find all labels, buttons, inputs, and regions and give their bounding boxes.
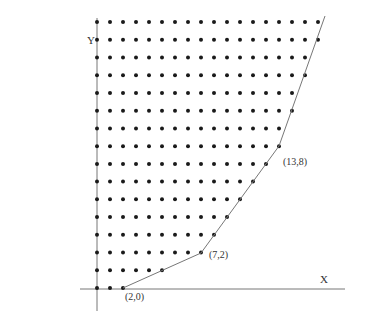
- lattice-point: [212, 162, 216, 166]
- lattice-point: [186, 20, 190, 24]
- lattice-point: [277, 38, 281, 42]
- lattice-point: [134, 56, 138, 60]
- lattice-point: [212, 38, 216, 42]
- vertex-labels: (2,0) (7,2) (13,8): [125, 156, 307, 303]
- lattice-point: [238, 126, 242, 130]
- lattice-point: [95, 91, 99, 95]
- lattice-point: [121, 251, 125, 255]
- boundary-polyline: [123, 16, 325, 288]
- lattice-point: [238, 109, 242, 113]
- lattice-point: [264, 56, 268, 60]
- lattice-point: [121, 73, 125, 77]
- lattice-point: [160, 73, 164, 77]
- lattice-point: [160, 233, 164, 237]
- lattice-point: [121, 144, 125, 148]
- lattice-point: [173, 20, 177, 24]
- lattice-point: [225, 91, 229, 95]
- lattice-point: [264, 20, 268, 24]
- lattice-point: [225, 56, 229, 60]
- lattice-point: [147, 197, 151, 201]
- lattice-point: [95, 109, 99, 113]
- lattice-point: [108, 20, 112, 24]
- lattice-point: [121, 38, 125, 42]
- lattice-point: [173, 180, 177, 184]
- lattice-point: [173, 251, 177, 255]
- lattice-point: [186, 144, 190, 148]
- lattice-point: [225, 109, 229, 113]
- lattice-point: [147, 73, 151, 77]
- lattice-point: [238, 91, 242, 95]
- lattice-point: [121, 233, 125, 237]
- lattice-point: [186, 91, 190, 95]
- lattice-point: [225, 126, 229, 130]
- lattice-point: [95, 73, 99, 77]
- lattice-point: [95, 144, 99, 148]
- lattice-point: [199, 91, 203, 95]
- lattice-point: [238, 56, 242, 60]
- lattice-point: [290, 20, 294, 24]
- lattice-point: [147, 268, 151, 272]
- lattice-point: [290, 91, 294, 95]
- lattice-point: [186, 233, 190, 237]
- vertex-label-7-2: (7,2): [209, 249, 228, 261]
- lattice-point: [160, 197, 164, 201]
- lattice-point: [121, 215, 125, 219]
- lattice-point: [173, 109, 177, 113]
- lattice-point: [225, 73, 229, 77]
- lattice-point: [186, 180, 190, 184]
- lattice-point: [186, 109, 190, 113]
- lattice-point: [95, 56, 99, 60]
- lattice-point: [147, 56, 151, 60]
- lattice-point: [147, 180, 151, 184]
- lattice-point: [199, 162, 203, 166]
- lattice-point: [212, 109, 216, 113]
- lattice-point: [199, 197, 203, 201]
- lattice-point: [212, 73, 216, 77]
- lattice-point: [277, 91, 281, 95]
- lattice-point: [225, 180, 229, 184]
- lattice-point: [186, 162, 190, 166]
- lattice-point: [121, 180, 125, 184]
- lattice-point: [108, 38, 112, 42]
- lattice-point: [186, 126, 190, 130]
- lattice-point: [251, 73, 255, 77]
- lattice-point: [95, 20, 99, 24]
- lattice-point: [134, 91, 138, 95]
- lattice-point: [303, 38, 307, 42]
- lattice-point: [199, 180, 203, 184]
- lattice-point: [108, 180, 112, 184]
- lattice-point: [134, 197, 138, 201]
- lattice-point: [251, 38, 255, 42]
- lattice-point: [251, 56, 255, 60]
- lattice-point: [212, 20, 216, 24]
- lattice-point: [147, 109, 151, 113]
- lattice-point: [134, 73, 138, 77]
- lattice-point: [199, 56, 203, 60]
- lattice-point: [108, 144, 112, 148]
- lattice-point: [264, 126, 268, 130]
- lattice-point: [108, 268, 112, 272]
- lattice-point: [147, 91, 151, 95]
- lattice-point: [251, 91, 255, 95]
- lattice-point: [121, 268, 125, 272]
- lattice-point: [290, 73, 294, 77]
- lattice-point: [121, 197, 125, 201]
- lattice-point: [108, 91, 112, 95]
- lattice-point: [95, 268, 99, 272]
- lattice-point: [147, 215, 151, 219]
- lattice-point: [238, 162, 242, 166]
- y-axis-label: Y: [87, 34, 95, 46]
- lattice-point: [95, 180, 99, 184]
- lattice-point: [134, 20, 138, 24]
- lattice-point: [108, 73, 112, 77]
- lattice-point: [173, 91, 177, 95]
- lattice-point: [225, 38, 229, 42]
- lattice-point: [186, 38, 190, 42]
- lattice-point: [95, 251, 99, 255]
- lattice-point: [186, 215, 190, 219]
- lattice-point: [160, 251, 164, 255]
- lattice-point: [173, 38, 177, 42]
- lattice-point: [121, 56, 125, 60]
- lattice-point: [95, 162, 99, 166]
- lattice-point: [134, 109, 138, 113]
